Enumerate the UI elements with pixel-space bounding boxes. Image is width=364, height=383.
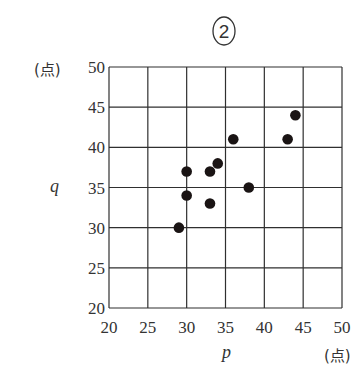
x-tick-label: 50 [334,318,351,337]
data-point [282,134,293,145]
y-tick-label: 40 [88,138,105,157]
data-point [181,190,192,201]
data-point [228,134,239,145]
grid [109,67,342,308]
y-tick-label: 20 [88,299,105,318]
x-axis-ticks: 20253035404550 [101,318,351,337]
data-point [181,166,192,177]
data-point [205,198,216,209]
x-tick-label: 40 [256,318,273,337]
y-axis-ticks: 20253035404550 [88,58,105,318]
x-tick-label: 45 [295,318,312,337]
data-point [205,166,216,177]
y-axis-unit: (点) [34,61,61,79]
scatter-plot: 2 20253035404550 20253035404550 (点) (点) … [0,0,364,383]
data-point [290,110,301,121]
chart-number-badge: 2 [213,17,235,45]
badge-number: 2 [219,21,230,42]
data-point [244,182,255,193]
data-points [174,110,301,233]
x-tick-label: 20 [101,318,118,337]
x-axis-title: p [220,342,231,362]
x-tick-label: 25 [139,318,156,337]
y-axis-title: q [50,176,59,196]
x-tick-label: 35 [217,318,234,337]
y-tick-label: 35 [88,179,105,198]
y-tick-label: 25 [88,259,105,278]
y-tick-label: 45 [88,98,105,117]
x-axis-unit: (点) [324,347,351,365]
y-tick-label: 30 [88,219,105,238]
x-tick-label: 30 [178,318,195,337]
data-point [174,222,185,233]
data-point [212,158,223,169]
y-tick-label: 50 [88,58,105,77]
